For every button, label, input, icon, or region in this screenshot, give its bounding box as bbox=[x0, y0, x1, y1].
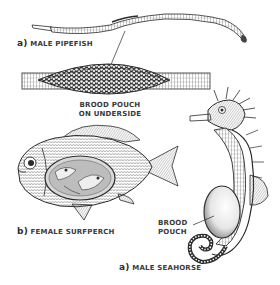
label-brood-pouch-on-underside: BROOD POUCH ON UNDERSIDE bbox=[70, 101, 150, 119]
label-prefix: b) bbox=[17, 226, 28, 236]
pipefish-brood-pouch-detail bbox=[22, 64, 210, 94]
figure: a) MALE PIPEFISH BROOD POUCH ON UNDERSID… bbox=[0, 0, 280, 285]
label-text: FEMALE SURFPERCH bbox=[31, 228, 115, 236]
label-text: MALE PIPEFISH bbox=[30, 40, 93, 48]
label-text: MALE SEAHORSE bbox=[132, 264, 201, 272]
label-line: ON UNDERSIDE bbox=[70, 110, 150, 119]
label-male-pipefish: a) MALE PIPEFISH bbox=[17, 39, 93, 49]
label-male-seahorse: a) MALE SEAHORSE bbox=[119, 263, 201, 273]
label-prefix: a) bbox=[17, 38, 28, 48]
label-line: POUCH bbox=[158, 228, 187, 237]
label-prefix: a) bbox=[119, 262, 130, 272]
label-line: BROOD POUCH bbox=[70, 101, 150, 110]
label-seahorse-brood-pouch: BROOD POUCH bbox=[158, 219, 187, 237]
label-line: BROOD bbox=[158, 219, 187, 228]
label-female-surfperch: b) FEMALE SURFPERCH bbox=[17, 227, 115, 237]
seahorse-illustration bbox=[190, 87, 268, 262]
surfperch-illustration bbox=[18, 125, 178, 220]
